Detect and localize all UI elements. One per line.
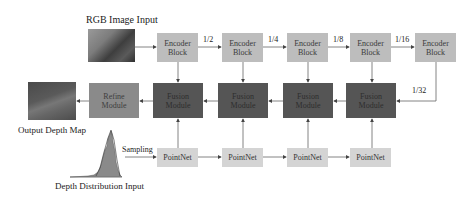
encoder-block-5: EncoderBlock <box>415 33 456 62</box>
scale-label-1-2: 1/2 <box>203 35 213 44</box>
encoder-block-1: EncoderBlock <box>157 33 198 62</box>
histogram-graphic <box>70 130 122 177</box>
rgb-image-thumbnail <box>88 29 135 62</box>
output-depth-map-image <box>28 82 76 120</box>
encoder-block-4: EncoderBlock <box>350 33 391 62</box>
scale-label-1-4: 1/4 <box>268 35 278 44</box>
rgb-input-label: RGB Image Input <box>86 14 158 25</box>
output-depth-map-label: Output Depth Map <box>18 125 86 135</box>
sampling-label: Sampling <box>122 145 153 154</box>
scale-label-1-8: 1/8 <box>333 35 343 44</box>
depth-distribution-label: Depth Distribution Input <box>55 181 144 191</box>
fusion-module-2: FusionModule <box>218 83 268 118</box>
pointnet-block-3: PointNet <box>287 148 328 167</box>
pointnet-block-1: PointNet <box>157 148 198 167</box>
fusion-module-1: FusionModule <box>153 83 203 118</box>
pointnet-block-2: PointNet <box>222 148 263 167</box>
fusion-module-3: FusionModule <box>283 83 333 118</box>
fusion-module-4: FusionModule <box>346 83 396 118</box>
encoder-block-3: EncoderBlock <box>287 33 328 62</box>
refine-module: RefineModule <box>89 83 139 118</box>
scale-label-1-32: 1/32 <box>412 86 426 95</box>
scale-label-1-16: 1/16 <box>395 35 409 44</box>
pointnet-block-4: PointNet <box>350 148 391 167</box>
encoder-block-2: EncoderBlock <box>222 33 263 62</box>
